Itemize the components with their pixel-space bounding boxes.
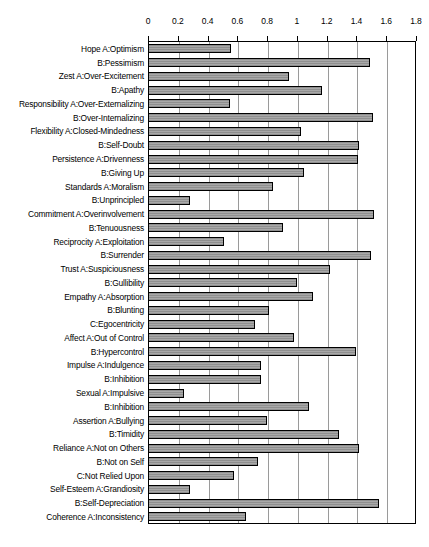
category-label: Impulse A:Indulgence [0, 360, 144, 370]
x-axis-tick-label: 1.2 [321, 16, 333, 26]
category-label: Flexibility A:Closed-Mindedness [0, 126, 144, 136]
bar-track [148, 386, 416, 400]
bar-row: B:Inhibition [0, 400, 429, 414]
bar-track [148, 496, 416, 510]
bar-row: Reciprocity A:Exploitation [0, 235, 429, 249]
bar-row: Zest A:Over-Excitement [0, 70, 429, 84]
bar [148, 265, 330, 274]
bar-row: Self-Esteem A:Grandiosity [0, 483, 429, 497]
bar-row: B:Gullibility [0, 276, 429, 290]
bar [148, 292, 313, 301]
bar-track [148, 166, 416, 180]
category-label: Empathy A:Absorption [0, 292, 144, 302]
bar-track [148, 193, 416, 207]
category-label: C:Egocentricity [0, 319, 144, 329]
bar [148, 237, 224, 246]
category-label: B:Tenuousness [0, 223, 144, 233]
bar [148, 99, 230, 108]
bar-track [148, 359, 416, 373]
bar-track [148, 207, 416, 221]
bar [148, 485, 190, 494]
bar [148, 320, 255, 329]
category-label: B:Blunting [0, 305, 144, 315]
bar-track [148, 138, 416, 152]
category-label: B:Inhibition [0, 374, 144, 384]
bar-row: B:Over-Internalizing [0, 111, 429, 125]
bar [148, 361, 261, 370]
category-label: Persistence A:Drivenness [0, 154, 144, 164]
bar-row: Sexual A:Impulsive [0, 386, 429, 400]
bar-row: B:Giving Up [0, 166, 429, 180]
x-axis-tick-label: 0.6 [232, 16, 244, 26]
bar-track [148, 152, 416, 166]
bar-track [148, 400, 416, 414]
bar [148, 389, 184, 398]
x-axis-tick-label: 1.6 [380, 16, 392, 26]
bar-row: B:Inhibition [0, 372, 429, 386]
bar [148, 430, 339, 439]
bar-track [148, 125, 416, 139]
category-label: C:Not Relied Upon [0, 471, 144, 481]
x-axis: 00.20.40.60.811.21.41.61.8 [0, 0, 429, 44]
x-axis-tick-label: 1 [295, 16, 300, 26]
category-label: Zest A:Over-Excitement [0, 71, 144, 81]
bar [148, 471, 234, 480]
x-axis-tick-label: 1.8 [410, 16, 422, 26]
category-label: Assertion A:Bullying [0, 416, 144, 426]
x-axis-tick-label: 0.8 [261, 16, 273, 26]
bar-track [148, 262, 416, 276]
category-label: Affect A:Out of Control [0, 333, 144, 343]
bar-track [148, 331, 416, 345]
x-axis-tick-label: 0.2 [172, 16, 184, 26]
category-label: B:Unprincipled [0, 195, 144, 205]
bar-track [148, 304, 416, 318]
bar-row: B:Tenuousness [0, 221, 429, 235]
bar-track [148, 235, 416, 249]
bar-row: B:Blunting [0, 304, 429, 318]
bar-track [148, 70, 416, 84]
bar [148, 44, 231, 53]
bar-row: B:Surrender [0, 248, 429, 262]
category-label: Hope A:Optimism [0, 44, 144, 54]
category-label: Responsibility A:Over-Externalizing [0, 99, 144, 109]
bar [148, 306, 269, 315]
bar-track [148, 56, 416, 70]
bar-track [148, 97, 416, 111]
bar-row: Trust A:Suspiciousness [0, 262, 429, 276]
bar-track [148, 469, 416, 483]
bar-track [148, 441, 416, 455]
bar-row: B:Not on Self [0, 455, 429, 469]
category-label: B:Over-Internalizing [0, 113, 144, 123]
plot-area: Hope A:OptimismB:PessimismZest A:Over-Ex… [0, 42, 429, 524]
category-label: B:Giving Up [0, 168, 144, 178]
bar-row: C:Egocentricity [0, 317, 429, 331]
x-axis-tick-label: 0 [146, 16, 151, 26]
bar-track [148, 317, 416, 331]
category-label: B:Hypercontrol [0, 347, 144, 357]
bar-row: C:Not Relied Upon [0, 469, 429, 483]
bar [148, 58, 370, 67]
bar [148, 113, 373, 122]
bar-chart: 00.20.40.60.811.21.41.61.8 Hope A:Optimi… [0, 0, 429, 547]
category-label: Self-Esteem A:Grandiosity [0, 484, 144, 494]
category-label: B:Apathy [0, 85, 144, 95]
bar [148, 168, 304, 177]
bar [148, 182, 273, 191]
category-label: Commitment A:Overinvolvement [0, 209, 144, 219]
bar [148, 333, 294, 342]
bar-track [148, 455, 416, 469]
bar-track [148, 372, 416, 386]
bar [148, 86, 322, 95]
bar-row: Assertion A:Bullying [0, 414, 429, 428]
bar-rows: Hope A:OptimismB:PessimismZest A:Over-Ex… [0, 42, 429, 524]
category-label: Standards A:Moralism [0, 182, 144, 192]
category-label: B:Self-Doubt [0, 140, 144, 150]
category-label: B:Pessimism [0, 58, 144, 68]
bar [148, 210, 374, 219]
bar [148, 499, 379, 508]
bar-track [148, 483, 416, 497]
category-label: B:Surrender [0, 250, 144, 260]
bar-track [148, 276, 416, 290]
bar-track [148, 414, 416, 428]
bar-track [148, 42, 416, 56]
